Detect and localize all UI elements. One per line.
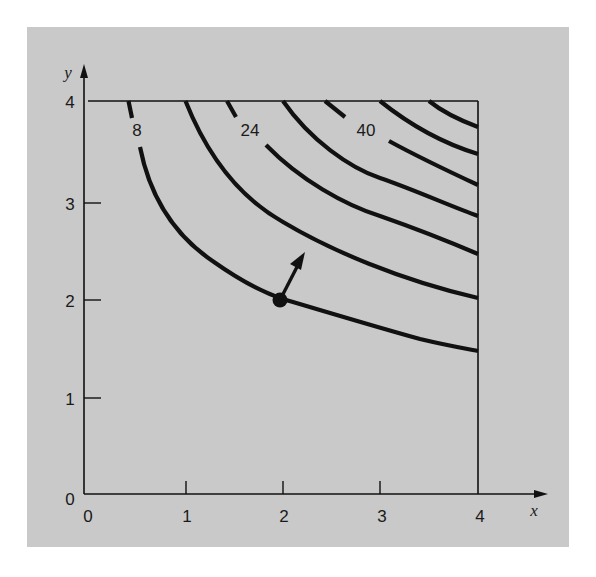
contour-8: [140, 147, 478, 351]
contour-label-24: 24: [241, 121, 260, 140]
y-tick-3: 3: [65, 195, 74, 214]
x-tick-4: 4: [475, 507, 484, 526]
x-tick-2: 2: [279, 507, 288, 526]
contour-plot: 0 1 2 3 4 0 1 2 3 4 x y 8 24 40: [0, 0, 596, 577]
contour-lines: [129, 101, 479, 351]
arrowhead-icon: [290, 252, 305, 270]
y-axis: [80, 64, 88, 494]
contour-label-40: 40: [357, 121, 376, 140]
y-axis-label: y: [62, 63, 72, 82]
x-tick-labels: 0 1 2 3 4: [83, 507, 484, 526]
contour-56: [429, 101, 478, 127]
contour-label-8: 8: [132, 121, 141, 140]
y-tick-1: 1: [65, 390, 74, 409]
gradient-arrow: [280, 252, 305, 300]
y-ticks: [84, 203, 101, 398]
contour-8-top: [129, 101, 133, 118]
y-tick-0: 0: [65, 490, 74, 509]
contour-32: [283, 101, 478, 216]
x-tick-3: 3: [377, 507, 386, 526]
contour-40-top: [325, 101, 345, 117]
x-ticks: [186, 481, 380, 494]
x-tick-1: 1: [182, 507, 191, 526]
x-tick-0: 0: [83, 507, 92, 526]
y-tick-4: 4: [65, 93, 74, 112]
contour-24-top: [227, 101, 236, 117]
y-tick-labels: 0 1 2 3 4: [65, 93, 74, 509]
x-axis-label: x: [529, 501, 538, 520]
y-tick-2: 2: [65, 292, 74, 311]
contour-24: [266, 145, 478, 254]
